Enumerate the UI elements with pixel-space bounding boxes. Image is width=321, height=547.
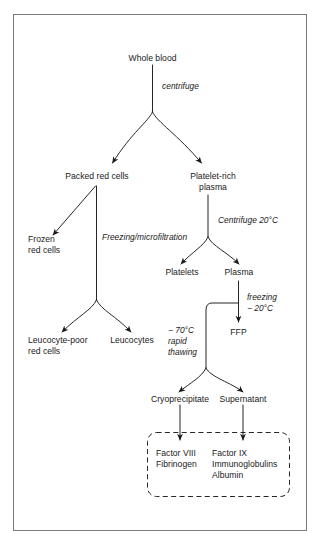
process-freezing-line2: − 20°C — [247, 303, 273, 314]
node-leucocytes: Leucocytes — [110, 335, 154, 346]
node-ffp: FFP — [230, 327, 246, 338]
product-fibrinogen: Fibrinogen — [156, 459, 197, 470]
node-platelets: Platelets — [165, 267, 198, 278]
node-leucocyte-poor-red-cells-line1: Leucocyte-poor — [28, 335, 88, 346]
node-plasma: Plasma — [225, 267, 254, 278]
process-thawing-line2: rapid — [168, 336, 187, 347]
process-thawing-line3: thawing — [168, 347, 197, 358]
edge-to-packed-red-cells — [113, 112, 153, 163]
product-immunoglobulins: Immunoglobulins — [212, 459, 277, 470]
process-freezing-microfiltration: Freezing/microfiltration — [102, 232, 187, 243]
node-leucocyte-poor-red-cells-line2: red cells — [28, 346, 60, 357]
node-platelet-rich-plasma-line1: Platelet-rich — [190, 171, 236, 182]
diagram-page: Whole blood centrifuge Packed red cells … — [0, 0, 321, 547]
node-cryoprecipitate: Cryoprecipitate — [151, 394, 209, 405]
product-factor-ix: Factor IX — [212, 448, 247, 459]
edge-to-leucocytes — [97, 300, 132, 332]
node-supernatant: Supernatant — [219, 394, 266, 405]
edge-to-supernatant — [206, 368, 243, 392]
edge-to-plasma — [208, 237, 239, 264]
edge-to-leucocyte-poor-red-cells — [62, 300, 97, 332]
edge-to-platelet-rich-plasma — [153, 112, 202, 163]
node-frozen-red-cells-line1: Frozen — [28, 234, 55, 245]
process-centrifuge-20c: Centrifuge 20°C — [218, 215, 278, 226]
product-factor-viii: Factor VIII — [156, 448, 196, 459]
process-centrifuge: centrifuge — [162, 81, 199, 92]
node-packed-red-cells: Packed red cells — [65, 171, 128, 182]
edge-to-frozen-red-cells — [53, 186, 96, 235]
process-freezing-line1: freezing — [247, 292, 277, 303]
product-albumin: Albumin — [212, 470, 243, 481]
node-platelet-rich-plasma-line2: plasma — [199, 182, 227, 193]
process-thawing-line1: − 70°C — [168, 325, 194, 336]
node-frozen-red-cells-line2: red cells — [28, 245, 60, 256]
node-whole-blood: Whole blood — [129, 53, 177, 64]
edge-to-cryoprecipitate — [179, 368, 206, 392]
